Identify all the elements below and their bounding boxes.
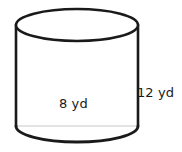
height-label: 12 yd	[137, 86, 174, 100]
cylinder-drawing	[0, 0, 182, 152]
cylinder-figure: 8 yd 12 yd	[0, 0, 182, 152]
top-rim-ellipse	[16, 9, 138, 41]
diameter-label: 8 yd	[59, 97, 88, 111]
